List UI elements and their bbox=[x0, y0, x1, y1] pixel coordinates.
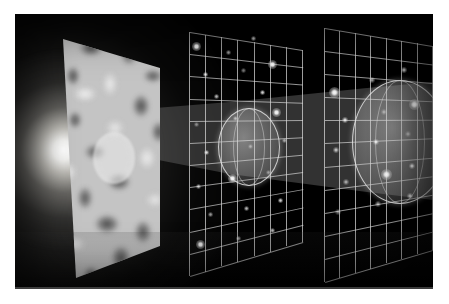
galaxy-point bbox=[343, 179, 349, 185]
figure-image: Black space scene with a bright glow at … bbox=[15, 14, 433, 289]
galaxy-point bbox=[251, 36, 256, 41]
galaxy-point bbox=[282, 138, 287, 143]
galaxy-point bbox=[335, 209, 341, 215]
galaxy-point bbox=[401, 67, 407, 73]
galaxy-point bbox=[333, 147, 339, 153]
galaxy-point bbox=[241, 68, 246, 73]
galaxy-point bbox=[228, 174, 237, 183]
galaxy-point bbox=[266, 170, 271, 175]
galaxy-point bbox=[204, 150, 209, 155]
galaxy-point bbox=[233, 116, 238, 121]
galaxy-point bbox=[203, 72, 208, 77]
galaxy-point bbox=[214, 94, 219, 99]
galaxy-point bbox=[268, 60, 277, 69]
figure-page: Black space scene with a bright glow at … bbox=[0, 0, 449, 304]
galaxy-point bbox=[409, 163, 415, 169]
galaxy-point bbox=[272, 108, 281, 117]
galaxy-point bbox=[244, 206, 249, 211]
galaxy-point bbox=[329, 87, 340, 98]
galaxy-point bbox=[194, 122, 199, 127]
galaxy-point bbox=[260, 90, 265, 95]
galaxy-point bbox=[278, 198, 283, 203]
galaxy-point bbox=[192, 42, 201, 51]
floor-haze bbox=[15, 232, 433, 289]
galaxy-point bbox=[196, 184, 201, 189]
galaxy-point bbox=[369, 77, 375, 83]
galaxy-point bbox=[407, 193, 413, 199]
galaxy-point bbox=[373, 139, 379, 145]
galaxy-point bbox=[342, 117, 348, 123]
photo-bottom-edge bbox=[15, 287, 433, 289]
galaxy-point bbox=[409, 99, 420, 110]
galaxy-point bbox=[248, 144, 253, 149]
galaxy-point bbox=[405, 131, 411, 137]
galaxy-point bbox=[208, 212, 213, 217]
galaxy-point bbox=[381, 109, 387, 115]
galaxy-point bbox=[375, 201, 381, 207]
galaxy-point bbox=[226, 50, 231, 55]
galaxy-point bbox=[381, 169, 392, 180]
